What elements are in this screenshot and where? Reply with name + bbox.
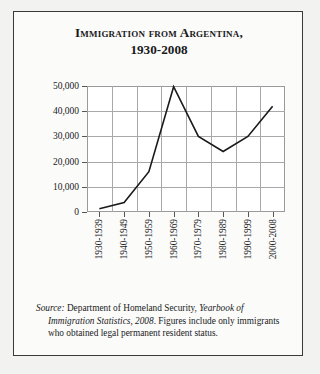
x-tick-label: 1970-1979 <box>193 219 203 259</box>
x-tick <box>273 212 274 217</box>
y-tick-label: 0 <box>74 207 79 217</box>
chart-card: Immigration from Argentina, 1930-2008 To… <box>13 11 303 356</box>
y-tick-label: 10,000 <box>53 182 79 192</box>
y-tick-label: 20,000 <box>53 157 79 167</box>
x-tick-label: 2000-2008 <box>268 219 278 259</box>
plot-area: 50,00040,00030,00020,00010,0000 1930-193… <box>87 86 285 212</box>
y-tick-label: 40,000 <box>53 106 79 116</box>
x-tick <box>248 212 249 217</box>
y-axis-title: Total immigrants per decade <box>44 0 58 86</box>
x-tick <box>124 212 125 217</box>
title-line-1: Immigration from Argentina, <box>75 25 243 40</box>
x-tick-label: 1940-1949 <box>119 219 129 259</box>
x-tick <box>223 212 224 217</box>
x-tick <box>149 212 150 217</box>
source-agency: Department of Homeland Security, <box>65 303 200 313</box>
x-tick-label: 1930-1939 <box>94 219 104 259</box>
x-tick-label: 1980-1989 <box>218 219 228 259</box>
x-tick-label: 1950-1959 <box>144 219 154 259</box>
data-series-line <box>87 86 285 212</box>
figure-container: Immigration from Argentina, 1930-2008 To… <box>0 0 320 374</box>
x-tick <box>198 212 199 217</box>
x-tick <box>99 212 100 217</box>
x-tick-label: 1960-1969 <box>169 219 179 259</box>
source-label: Source: <box>36 303 65 313</box>
y-tick <box>82 212 87 213</box>
title-line-2: 1930-2008 <box>130 42 187 57</box>
source-note: Source: Department of Homeland Security,… <box>36 302 286 340</box>
x-tick-label: 1990-1999 <box>243 219 253 259</box>
y-tick-label: 50,000 <box>53 81 79 91</box>
y-tick-label: 30,000 <box>53 131 79 141</box>
x-tick <box>174 212 175 217</box>
